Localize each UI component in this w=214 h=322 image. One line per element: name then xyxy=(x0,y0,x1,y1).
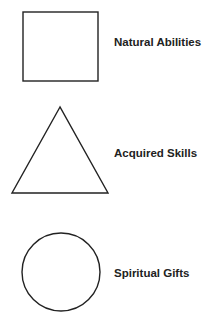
label-natural-abilities: Natural Abilities xyxy=(114,35,201,49)
square-shape xyxy=(23,12,98,81)
label-acquired-skills: Acquired Skills xyxy=(114,146,197,160)
triangle-shape xyxy=(12,107,108,193)
circle-shape xyxy=(22,233,100,311)
label-spiritual-gifts: Spiritual Gifts xyxy=(114,266,189,280)
